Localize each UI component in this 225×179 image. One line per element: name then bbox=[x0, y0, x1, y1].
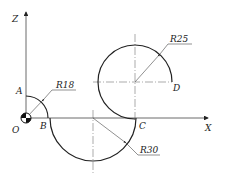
dim-label-r18: R18 bbox=[55, 80, 75, 90]
leader-r30 bbox=[93, 118, 126, 143]
point-label-o: O bbox=[12, 125, 20, 135]
leader-r30-ext bbox=[126, 143, 138, 155]
leader-r18-ext bbox=[44, 90, 52, 99]
leader-r25 bbox=[135, 54, 160, 82]
x-axis-label: X bbox=[204, 123, 212, 133]
point-label-b: B bbox=[39, 121, 47, 131]
z-axis-label: Z bbox=[11, 14, 19, 24]
point-label-d: D bbox=[172, 83, 180, 93]
dim-label-r25: R25 bbox=[169, 34, 189, 44]
point-label-a: A bbox=[15, 86, 23, 96]
dim-label-r30: R30 bbox=[139, 145, 159, 155]
point-label-c: C bbox=[139, 121, 146, 131]
leader-r25-ext bbox=[160, 44, 168, 54]
origin-symbol-icon bbox=[21, 113, 31, 123]
cnc-arc-diagram: Z X A O B C D R18 R25 R30 bbox=[0, 0, 225, 179]
